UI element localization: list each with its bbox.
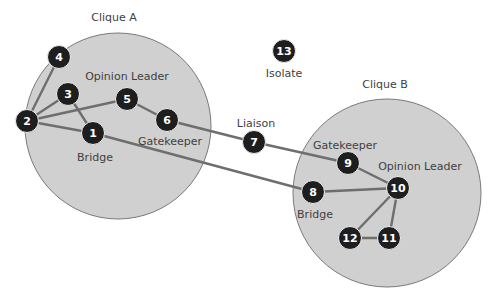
node-number: 8 xyxy=(309,186,317,199)
node-number: 3 xyxy=(64,88,72,101)
clique-a-label: Clique A xyxy=(91,11,137,24)
node-9: 9 xyxy=(337,152,360,175)
node-number: 9 xyxy=(344,157,352,170)
role-label-opinion-leader: Opinion Leader xyxy=(85,70,169,83)
node-3: 3 xyxy=(57,83,80,106)
node-10: 10 xyxy=(387,177,410,200)
node-4: 4 xyxy=(48,46,71,69)
node-number: 4 xyxy=(55,51,63,64)
node-5: 5 xyxy=(116,88,139,111)
role-label-bridge: Bridge xyxy=(297,208,333,221)
node-11: 11 xyxy=(378,227,401,250)
role-label-opinion-leader: Opinion Leader xyxy=(378,160,462,173)
node-number: 6 xyxy=(163,114,171,127)
node-number: 11 xyxy=(381,232,396,245)
node-number: 2 xyxy=(23,115,31,128)
node-8: 8 xyxy=(302,181,325,204)
role-label-gatekeeper: Gatekeeper xyxy=(313,139,378,152)
node-number: 1 xyxy=(89,127,97,140)
node-7: 7 xyxy=(243,131,266,154)
role-label-liaison: Liaison xyxy=(237,117,275,130)
node-number: 12 xyxy=(342,232,357,245)
network-diagram: 12345678910111213 Clique AClique BOpinio… xyxy=(0,0,492,303)
node-6: 6 xyxy=(156,109,179,132)
clique-b-label: Clique B xyxy=(362,78,408,91)
node-number: 5 xyxy=(123,93,131,106)
node-13: 13 xyxy=(273,40,296,63)
node-12: 12 xyxy=(339,227,362,250)
node-1: 1 xyxy=(82,122,105,145)
role-label-bridge: Bridge xyxy=(77,151,113,164)
role-label-isolate: Isolate xyxy=(266,67,303,80)
node-2: 2 xyxy=(16,110,39,133)
node-number: 10 xyxy=(390,182,406,195)
role-label-gatekeeper: Gatekeeper xyxy=(138,135,203,148)
node-number: 13 xyxy=(276,45,291,58)
node-number: 7 xyxy=(250,136,258,149)
